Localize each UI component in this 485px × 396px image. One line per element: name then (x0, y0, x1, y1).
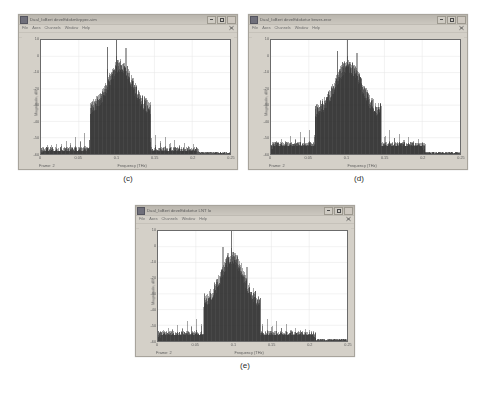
x-tick-label: 0.15 (151, 156, 158, 160)
axes-e (157, 230, 348, 342)
x-tick-label: 0.2 (307, 343, 312, 347)
app-icon (250, 16, 258, 24)
statusbar-d: Frame: 2 Frequency (THz) (255, 162, 461, 169)
y-tick-label: 10 (265, 37, 269, 41)
window-buttons-d[interactable] (437, 16, 466, 24)
y-tick-label: -40 (151, 308, 157, 312)
y-tick-label: 0 (267, 54, 269, 58)
menubar-d[interactable]: File Axes Channels Window Help (249, 25, 467, 33)
window-buttons-c[interactable] (207, 16, 236, 24)
spectrum-trace (158, 231, 347, 341)
menubar-c[interactable]: File Axes Channels Window Help (19, 25, 237, 33)
x-tick-label: 0.2 (420, 156, 425, 160)
maximize-icon[interactable] (447, 16, 456, 24)
menu-channels[interactable]: Channels (162, 217, 178, 222)
y-tick-label: -20 (264, 87, 270, 91)
spectrum-window-e[interactable]: Dual_IoBert deveEdoketur LNT lo File Axe… (135, 205, 355, 357)
menu-channels[interactable]: Channels (45, 26, 61, 31)
maximize-icon[interactable] (334, 207, 343, 215)
minimize-icon[interactable] (437, 16, 446, 24)
x-tick-label: 0.1 (344, 156, 349, 160)
menu-help[interactable]: Help (199, 217, 207, 222)
window-title-e: Dual_IoBert deveEdoketur LNT lo (147, 208, 322, 214)
x-tick-label: 0.2 (190, 156, 195, 160)
x-tick-label: 0.05 (191, 343, 198, 347)
caption-c: (c) (98, 174, 158, 183)
y-tick-label: -10 (151, 260, 157, 264)
spectrum-window-c[interactable]: Dual_IoBert deveEdokmkrpper-sim File Axe… (18, 14, 238, 170)
menu-axes[interactable]: Axes (32, 26, 40, 31)
menu-help[interactable]: Help (312, 26, 320, 31)
x-tick-label: 0.05 (74, 156, 81, 160)
axes-c (40, 39, 231, 155)
spectrum-window-d[interactable]: Dual_IoBert deveEdoketur brwer-eror File… (248, 14, 468, 170)
x-tick-label: 0.25 (457, 156, 464, 160)
frame-counter-c: Frame: 2 (39, 163, 55, 168)
caption-e: (e) (215, 361, 275, 370)
maximize-icon[interactable] (217, 16, 226, 24)
y-tick-label: -20 (151, 276, 157, 280)
close-glyph (458, 25, 465, 31)
y-tick-label: -10 (264, 70, 270, 74)
menu-help[interactable]: Help (82, 26, 90, 31)
menu-window[interactable]: Window (182, 217, 196, 222)
statusbar-c: Frame: 2 Frequency (THz) (25, 162, 231, 169)
window-buttons-e[interactable] (324, 207, 353, 215)
x-tick-label: 0.15 (381, 156, 388, 160)
menu-channels[interactable]: Channels (275, 26, 291, 31)
y-tick-label: 10 (152, 228, 156, 232)
y-tick-label: -40 (34, 120, 40, 124)
titlebar-d[interactable]: Dual_IoBert deveEdoketur brwer-eror (249, 15, 467, 25)
x-tick-label: 0.1 (114, 156, 119, 160)
caption-d: (d) (329, 174, 389, 183)
plot-container-d: Magnitude, dB 100-10-20-30-40-50-60 00.0… (249, 35, 467, 169)
x-tick-label: 0.05 (304, 156, 311, 160)
spectrum-plot-c (41, 40, 230, 154)
axes-d (270, 39, 461, 155)
minimize-icon[interactable] (324, 207, 333, 215)
y-tick-label: -50 (34, 136, 40, 140)
y-tick-label: -50 (264, 136, 270, 140)
close-icon[interactable] (344, 207, 353, 215)
y-axis-ticks-c: 100-10-20-30-40-50-60 (28, 37, 39, 155)
x-tick-label: 0.1 (231, 343, 236, 347)
y-tick-label: 0 (154, 244, 156, 248)
x-axis-label-d: Frequency (THz) (348, 163, 377, 168)
close-icon[interactable] (227, 16, 236, 24)
menu-window[interactable]: Window (295, 26, 309, 31)
y-tick-label: -40 (264, 120, 270, 124)
menu-file[interactable]: File (22, 26, 28, 31)
y-tick-label: -50 (151, 324, 157, 328)
menu-axes[interactable]: Axes (149, 217, 157, 222)
y-tick-label: -20 (34, 87, 40, 91)
y-tick-label: -10 (34, 70, 40, 74)
window-title-d: Dual_IoBert deveEdoketur brwer-eror (260, 17, 435, 23)
menu-file[interactable]: File (139, 217, 145, 222)
menubar-e[interactable]: File Axes Channels Window Help (136, 216, 354, 224)
spectrum-trace (41, 40, 230, 154)
titlebar-e[interactable]: Dual_IoBert deveEdoketur LNT lo (136, 206, 354, 216)
x-tick-label: 0 (156, 343, 158, 347)
y-tick-label: 10 (35, 37, 39, 41)
x-tick-label: 0.25 (344, 343, 351, 347)
menu-window[interactable]: Window (65, 26, 79, 31)
window-title-c: Dual_IoBert deveEdokmkrpper-sim (30, 17, 205, 23)
x-tick-label: 0 (39, 156, 41, 160)
y-axis-ticks-d: 100-10-20-30-40-50-60 (258, 37, 269, 155)
y-tick-label: -30 (34, 103, 40, 107)
app-icon (20, 16, 28, 24)
y-axis-ticks-e: 100-10-20-30-40-50-60 (145, 228, 156, 342)
plot-area-e: Magnitude, dB 100-10-20-30-40-50-60 00.0… (139, 228, 351, 356)
menu-file[interactable]: File (252, 26, 258, 31)
menu-axes[interactable]: Axes (262, 26, 270, 31)
minimize-icon[interactable] (207, 16, 216, 24)
titlebar-c[interactable]: Dual_IoBert deveEdokmkrpper-sim (19, 15, 237, 25)
plot-container-e: Magnitude, dB 100-10-20-30-40-50-60 00.0… (136, 226, 354, 356)
plot-area-c: Magnitude, dB 100-10-20-30-40-50-60 00.0… (22, 37, 234, 169)
frame-counter-d: Frame: 2 (269, 163, 285, 168)
x-axis-label-e: Frequency (THz) (235, 350, 264, 355)
spectrum-plot-e (158, 231, 347, 341)
close-icon[interactable] (457, 16, 466, 24)
close-glyph (345, 216, 352, 222)
y-tick-label: -30 (264, 103, 270, 107)
